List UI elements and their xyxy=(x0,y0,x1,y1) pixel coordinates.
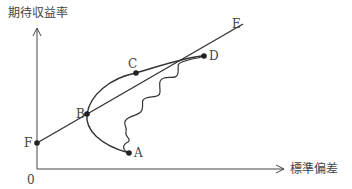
point-d-marker xyxy=(201,53,207,59)
point-f-label: F xyxy=(24,137,32,149)
capital-market-line xyxy=(37,24,243,143)
y-axis-label: 期待収益率 xyxy=(8,7,68,19)
y-axis xyxy=(33,28,41,169)
point-a-marker xyxy=(126,150,132,156)
point-d-label: D xyxy=(209,50,219,62)
point-e-label: E xyxy=(232,18,241,30)
x-axis-label: 標準偏差 xyxy=(290,163,338,175)
point-a-label: A xyxy=(134,147,143,159)
point-b-label: B xyxy=(76,108,85,120)
point-c-marker xyxy=(133,70,139,76)
origin-label: 0 xyxy=(27,174,35,186)
x-axis xyxy=(37,165,284,173)
diagram-canvas xyxy=(0,0,352,189)
point-b-marker xyxy=(84,111,90,117)
point-c-label: C xyxy=(128,58,137,70)
point-f-marker xyxy=(34,140,40,146)
